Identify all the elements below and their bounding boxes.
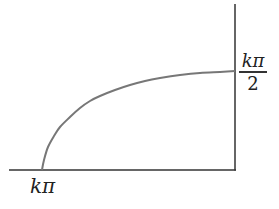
diagram: kπ kπ 2 (0, 0, 279, 209)
x-axis-label: kπ (30, 176, 55, 196)
fraction-numerator: kπ (239, 52, 267, 70)
x-axis-label-text: kπ (30, 174, 55, 198)
curve (42, 71, 235, 170)
fraction-denominator: 2 (239, 75, 267, 93)
y-axis-label-fraction: kπ 2 (239, 52, 267, 93)
